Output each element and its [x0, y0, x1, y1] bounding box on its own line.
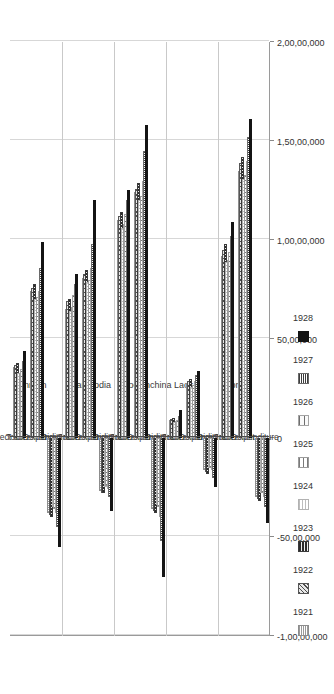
legend-swatch: [298, 583, 309, 594]
gridline: [10, 40, 269, 41]
bar: [179, 410, 182, 438]
legend-swatch: [298, 625, 309, 636]
zero-axis-line: [10, 436, 269, 437]
axis-tick: [270, 41, 274, 42]
bar: [145, 125, 148, 438]
bar: [58, 438, 61, 547]
legend-swatch: [298, 499, 309, 510]
legend-item[interactable]: 1922: [298, 560, 309, 594]
rotated-chart-container: 2,00,00,0001,50,00,0001,00,00,00050,00,0…: [0, 0, 334, 694]
axis-tick: [270, 239, 274, 240]
gridline: [10, 535, 269, 536]
bar: [162, 438, 165, 577]
plot-wrapper: 2,00,00,0001,50,00,0001,00,00,00050,00,0…: [0, 0, 334, 694]
legend-swatch: [298, 373, 309, 384]
legend-swatch: [298, 331, 309, 342]
bar: [75, 274, 78, 438]
bar: [266, 438, 269, 523]
legend-label: 1923: [293, 523, 313, 533]
bar: [110, 438, 113, 511]
legend-swatch: [298, 415, 309, 426]
legend-item[interactable]: 1927: [298, 350, 309, 384]
bar: [93, 200, 96, 438]
bar: [41, 242, 44, 438]
legend-label: 1926: [293, 397, 313, 407]
bar: [231, 222, 234, 438]
axis-tick: [270, 140, 274, 141]
chart-canvas: 2,00,00,0001,50,00,0001,00,00,00050,00,0…: [0, 0, 334, 694]
legend-label: 1921: [293, 607, 313, 617]
legend-item[interactable]: 1924: [298, 476, 309, 510]
legend-item[interactable]: 1926: [298, 392, 309, 426]
group-separator: [114, 42, 115, 636]
legend-label: 1925: [293, 439, 313, 449]
legend-swatch: [298, 541, 309, 552]
bar: [214, 438, 217, 488]
legend-swatch: [298, 457, 309, 468]
axis-tick: [270, 635, 274, 636]
axis-tick: [270, 338, 274, 339]
bar: [127, 191, 130, 439]
gridline: [10, 634, 269, 635]
legend-label: 1922: [293, 565, 313, 575]
legend-item[interactable]: 1925: [298, 434, 309, 468]
bar: [23, 351, 26, 438]
legend-item[interactable]: 1928: [298, 308, 309, 342]
group-separator: [218, 42, 219, 636]
legend-item[interactable]: 1923: [298, 518, 309, 552]
gridline: [10, 139, 269, 140]
chart-legend: 19211922192319241925192619271928: [292, 42, 314, 636]
group-separator: [166, 42, 167, 636]
bar: [249, 119, 252, 438]
legend-label: 1927: [293, 355, 313, 365]
legend-item[interactable]: 1921: [298, 602, 309, 636]
bar: [197, 371, 200, 438]
group-separator: [62, 42, 63, 636]
legend-label: 1928: [293, 313, 313, 323]
axis-tick: [270, 536, 274, 537]
legend-label: 1924: [293, 481, 313, 491]
